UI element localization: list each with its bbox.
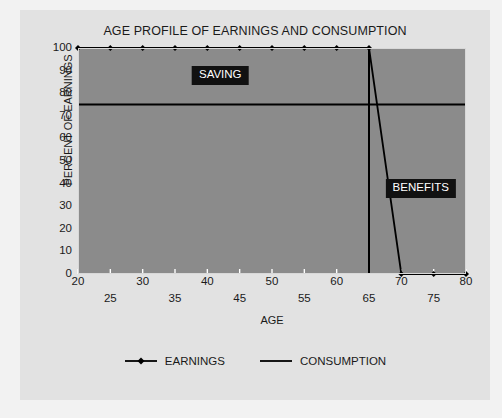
legend-line-diamond-icon [124, 355, 158, 367]
x-tick-label: 35 [155, 293, 195, 305]
y-tick-label: 10 [32, 245, 72, 257]
plot-area: SAVING BENEFITS [78, 48, 466, 274]
y-tick-label: 90 [32, 65, 72, 77]
legend-line-icon [259, 355, 293, 367]
legend-item[interactable]: EARNINGS [124, 355, 225, 367]
y-tick-label: 80 [32, 87, 72, 99]
x-tick-label: 75 [414, 293, 454, 305]
y-tick-label: 60 [32, 132, 72, 144]
x-tick-label: 50 [252, 276, 292, 288]
y-tick-label: 20 [32, 223, 72, 235]
x-tick-label: 30 [123, 276, 163, 288]
y-tick-label: 100 [32, 42, 72, 54]
x-tick-label: 55 [284, 293, 324, 305]
x-tick-label: 80 [446, 276, 486, 288]
chart-title: AGE PROFILE OF EARNINGS AND CONSUMPTION [20, 24, 490, 38]
x-axis-tick-labels: 20304050607080253545556575 [78, 276, 466, 316]
chart-panel: AGE PROFILE OF EARNINGS AND CONSUMPTION … [20, 10, 490, 400]
x-tick-label: 70 [381, 276, 421, 288]
x-axis-title: AGE [78, 314, 466, 326]
y-tick-label: 50 [32, 155, 72, 167]
legend-label: EARNINGS [165, 355, 225, 367]
legend-label: CONSUMPTION [300, 355, 386, 367]
annotation-benefits: BENEFITS [386, 179, 456, 198]
y-tick-label: 70 [32, 110, 72, 122]
y-axis-tick-labels: 1009080706050403020100 [28, 48, 72, 274]
chart-screenshot: AGE PROFILE OF EARNINGS AND CONSUMPTION … [0, 0, 502, 418]
x-tick-label: 40 [187, 276, 227, 288]
x-tick-label: 65 [349, 293, 389, 305]
x-tick-label: 45 [220, 293, 260, 305]
x-tick-label: 20 [58, 276, 98, 288]
y-tick-label: 30 [32, 200, 72, 212]
plot-border [79, 49, 466, 274]
y-tick-label: 40 [32, 178, 72, 190]
x-tick-label: 60 [317, 276, 357, 288]
plot-svg [78, 48, 466, 274]
legend-item[interactable]: CONSUMPTION [259, 355, 386, 367]
annotation-saving: SAVING [192, 66, 249, 85]
chart-legend: EARNINGSCONSUMPTION [20, 355, 490, 367]
series-line-earnings [78, 48, 466, 274]
x-tick-label: 25 [90, 293, 130, 305]
